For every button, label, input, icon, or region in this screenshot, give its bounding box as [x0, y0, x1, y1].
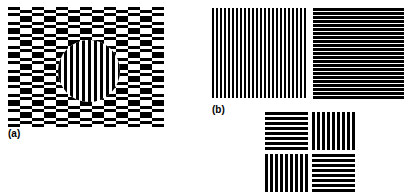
horizontal-grating-image	[313, 8, 404, 100]
vertical-grating-image	[212, 8, 307, 98]
quadrant-grating-image	[265, 112, 355, 193]
panel-label-a: (a)	[8, 129, 20, 139]
quadrant-grating-panel	[265, 112, 355, 193]
panel-label-b: (b)	[212, 105, 225, 115]
figure-root: (a) (b)	[0, 0, 409, 193]
checkerboard-illusion-panel	[8, 7, 164, 127]
horizontal-grating-square	[313, 8, 404, 100]
vertical-grating-square	[212, 8, 307, 98]
checkerboard-illusion-image	[8, 7, 164, 127]
